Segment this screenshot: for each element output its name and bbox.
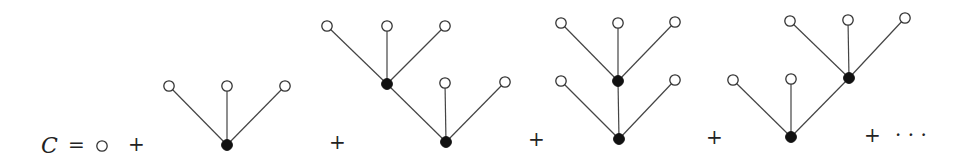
- tree-edge: [227, 86, 285, 145]
- leaf-node-icon: [900, 13, 910, 23]
- tree-edge: [618, 81, 619, 139]
- internal-node-icon: [441, 137, 452, 148]
- equals-sign: =: [68, 133, 85, 157]
- plus-sign: +: [128, 132, 145, 156]
- tree-edge: [561, 23, 618, 81]
- leaf-node-icon: [786, 74, 796, 84]
- tree-edge: [561, 81, 619, 139]
- plus-sign: +: [528, 127, 545, 151]
- nodes-layer: [97, 13, 910, 151]
- ellipsis: · · ·: [895, 123, 927, 147]
- leaf-node-icon: [322, 21, 332, 31]
- leaf-node-icon: [440, 78, 450, 88]
- internal-node-icon: [613, 76, 624, 87]
- internal-node-icon: [844, 73, 855, 84]
- leaf-node-icon: [500, 77, 510, 87]
- leaf-node-icon: [556, 76, 566, 86]
- leaf-node-icon: [164, 81, 174, 91]
- tree-1: [169, 86, 285, 145]
- leaf-node-icon: [843, 15, 853, 25]
- plus-sign: +: [329, 130, 346, 154]
- tree-edge: [387, 26, 445, 84]
- tree-series-diagram: C=+++++· · ·: [0, 0, 960, 160]
- leaf-node-icon: [222, 81, 232, 91]
- plus-sign: +: [864, 123, 881, 147]
- tree-edge: [618, 22, 675, 81]
- leaf-node-icon: [613, 18, 623, 28]
- lhs-symbol: C: [41, 133, 58, 158]
- tree-edge: [327, 26, 387, 84]
- tree-4: [733, 18, 905, 137]
- tree-edge: [733, 80, 791, 137]
- tree-edge: [445, 83, 446, 142]
- internal-node-icon: [614, 134, 625, 145]
- leaf-node-icon: [440, 21, 450, 31]
- internal-node-icon: [222, 140, 233, 151]
- leaf-node-icon: [97, 141, 107, 151]
- tree-2-nodes: [322, 21, 510, 148]
- internal-node-icon: [786, 132, 797, 143]
- tree-edge: [446, 82, 505, 142]
- leaf-node-icon: [280, 81, 290, 91]
- tree-4-nodes: [728, 13, 910, 143]
- tree-edge: [848, 20, 849, 78]
- leaf-node-icon: [785, 16, 795, 26]
- leaf-node-icon: [382, 21, 392, 31]
- single-leaf-nodes: [97, 141, 107, 151]
- tree-edge: [619, 80, 675, 139]
- tree-edge: [849, 18, 905, 78]
- plus-sign: +: [706, 125, 723, 149]
- leaf-node-icon: [670, 75, 680, 85]
- internal-node-icon: [382, 79, 393, 90]
- leaf-node-icon: [556, 18, 566, 28]
- leaf-node-icon: [670, 17, 680, 27]
- tree-edge: [790, 21, 849, 78]
- leaf-node-icon: [728, 75, 738, 85]
- tree-edge: [387, 84, 446, 142]
- tree-2: [327, 26, 505, 142]
- tree-edge: [791, 78, 849, 137]
- tree-edge: [169, 86, 227, 145]
